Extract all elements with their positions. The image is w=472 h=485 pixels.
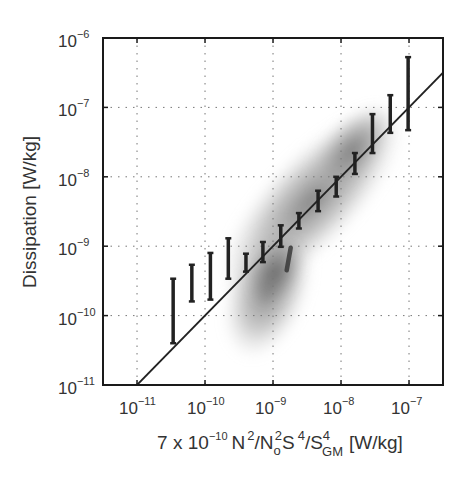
density-cloud — [192, 78, 432, 371]
range-bar — [189, 265, 195, 302]
range-bar — [405, 57, 411, 130]
x-tick-label: 10−11 — [119, 395, 156, 418]
x-tick-label: 10−7 — [391, 395, 422, 418]
x-tick-labels: 10−1110−1010−910−810−7 — [119, 395, 422, 418]
x-axis-label: 7 x 10−10N2/No2S4/S4GM[W/kg] — [157, 428, 403, 459]
y-tick-label: 10−10 — [58, 306, 96, 329]
figure: 10−610−710−810−910−1010−11 10−1110−1010−… — [0, 0, 472, 485]
x-tick-label: 10−10 — [187, 395, 225, 418]
y-tick-label: 10−7 — [58, 97, 89, 120]
range-bar — [170, 279, 176, 344]
y-tick-label: 10−6 — [58, 28, 89, 51]
one-to-one-line — [137, 73, 443, 385]
x-tick-label: 10−9 — [255, 395, 286, 418]
chart-canvas: 10−610−710−810−910−1010−11 10−1110−1010−… — [0, 0, 472, 485]
range-bar — [207, 253, 213, 300]
y-tick-label: 10−9 — [58, 236, 89, 259]
y-tick-label: 10−11 — [58, 375, 95, 398]
y-axis-label: Dissipation [W/kg] — [19, 136, 40, 288]
y-tick-labels: 10−610−710−810−910−1010−11 — [58, 28, 96, 398]
x-tick-label: 10−8 — [323, 395, 354, 418]
y-tick-label: 10−8 — [58, 167, 89, 190]
